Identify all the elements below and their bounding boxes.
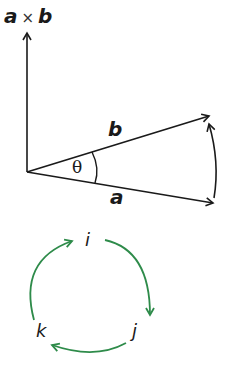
arc-j-to-k bbox=[52, 343, 126, 352]
arc-k-to-i bbox=[30, 241, 72, 320]
vector-a-label: a bbox=[110, 185, 124, 209]
node-k-label: k bbox=[36, 320, 46, 341]
rotation-arc-arrow bbox=[209, 124, 216, 198]
node-j-label: j bbox=[132, 320, 137, 341]
cross-product-label: a × b bbox=[4, 4, 52, 28]
label-b: b bbox=[38, 4, 52, 28]
node-i-label: i bbox=[85, 229, 90, 250]
diagram-canvas bbox=[0, 0, 242, 365]
label-a: a bbox=[4, 4, 18, 28]
times-symbol: × bbox=[22, 9, 35, 27]
arc-i-to-j bbox=[105, 240, 150, 315]
vector-b-label: b bbox=[108, 117, 122, 141]
angle-theta-label: θ bbox=[72, 157, 82, 177]
angle-arc bbox=[92, 152, 97, 183]
